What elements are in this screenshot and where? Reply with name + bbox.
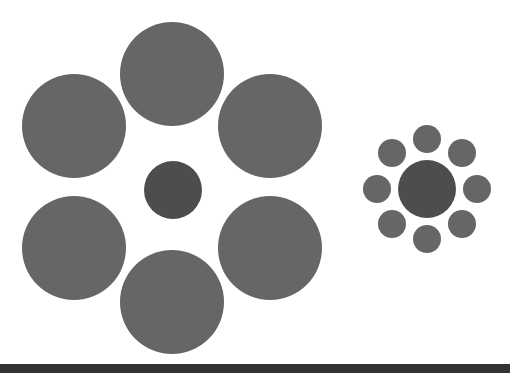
- left-surround-circle: [218, 196, 322, 300]
- bottom-bar: [0, 364, 510, 373]
- right-surround-circle: [463, 175, 491, 203]
- left-surround-circle: [120, 250, 224, 354]
- left-surround-circle: [22, 196, 126, 300]
- right-surround-circle: [378, 210, 406, 238]
- right-surround-circle: [448, 210, 476, 238]
- right-surround-circle: [448, 139, 476, 167]
- left-center-circle: [144, 161, 202, 219]
- right-surround-circle: [413, 225, 441, 253]
- right-surround-circle: [363, 175, 391, 203]
- right-surround-circle: [413, 125, 441, 153]
- left-surround-circle: [120, 22, 224, 126]
- left-surround-circle: [218, 74, 322, 178]
- right-surround-circle: [378, 139, 406, 167]
- right-center-circle: [398, 160, 456, 218]
- left-surround-circle: [22, 74, 126, 178]
